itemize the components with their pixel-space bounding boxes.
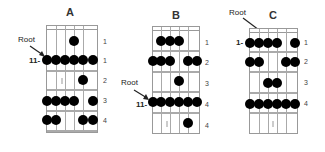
fret [250, 112, 297, 114]
finger-dot [290, 38, 300, 48]
finger-dot [254, 57, 264, 67]
fretboard [249, 28, 298, 134]
fret [250, 92, 297, 94]
fret [250, 51, 297, 53]
finger-number: 2 [205, 59, 209, 66]
fret [153, 112, 199, 114]
finger-number: 3 [205, 80, 209, 87]
position-label: 11- [136, 100, 147, 109]
inlay-marker [166, 121, 168, 127]
finger-number: 1 [304, 39, 308, 46]
finger-dot [174, 76, 184, 86]
finger-dot [192, 97, 202, 107]
fret [153, 71, 199, 73]
finger-dot [183, 118, 193, 128]
position-label: 1- [236, 38, 243, 47]
finger-number: 3 [103, 97, 107, 104]
fretboard [152, 26, 200, 134]
inlay-marker [272, 121, 274, 127]
finger-number: 2 [103, 77, 107, 84]
finger-dot [290, 57, 300, 67]
finger-number: 1 [103, 38, 107, 45]
finger-dot [192, 56, 202, 66]
fret [153, 50, 199, 52]
finger-dot [88, 115, 98, 125]
diagram-c: C Root 1- 1 2 3 4 [215, 0, 325, 152]
finger-dot [88, 96, 98, 106]
finger-number: 4 [304, 100, 308, 107]
finger-dot [78, 75, 88, 85]
fret [47, 130, 97, 132]
finger-dot [51, 115, 61, 125]
nut [153, 27, 199, 31]
diagram-a: A Root 11- 1 1 2 3 4 [0, 0, 110, 152]
finger-dot [272, 38, 282, 48]
finger-dot [165, 56, 175, 66]
finger-dot [272, 78, 282, 88]
diagram-b: B Root 11- 1 2 3 4 4 [110, 0, 215, 152]
fret [250, 71, 297, 73]
finger-number: 1 [103, 57, 107, 64]
finger-number: 4 [205, 122, 209, 129]
finger-dot [78, 115, 88, 125]
string [65, 26, 66, 132]
fret [47, 70, 97, 72]
fret [47, 89, 97, 91]
finger-number: 3 [304, 79, 308, 86]
position-label: 11- [29, 56, 40, 65]
root-label: Root [121, 78, 138, 87]
diagram-title: A [66, 6, 74, 18]
finger-number: 4 [103, 117, 107, 124]
nut [250, 29, 297, 33]
fret [47, 110, 97, 112]
finger-dot [78, 55, 88, 65]
inlay-marker [61, 78, 63, 84]
finger-number: 4 [205, 101, 209, 108]
nut [47, 26, 97, 30]
diagram-title: B [172, 9, 180, 21]
fret [153, 91, 199, 93]
fretboard [46, 25, 98, 133]
finger-number: 1 [205, 39, 209, 46]
finger-dot [69, 96, 79, 106]
finger-dot [88, 55, 98, 65]
finger-number: 2 [304, 58, 308, 65]
finger-dot [290, 99, 300, 109]
finger-dot [174, 36, 184, 46]
diagram-title: C [269, 9, 277, 21]
root-label: Root [18, 35, 35, 44]
finger-dot [69, 36, 79, 46]
string [286, 29, 287, 133]
